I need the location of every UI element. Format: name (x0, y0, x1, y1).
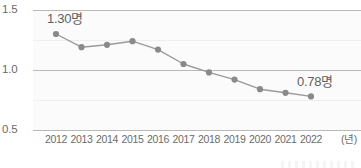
data-point-2014[interactable] (104, 42, 110, 48)
x-axis-tick-2013: 2013 (70, 134, 92, 145)
data-label-last-point: 0.78명 (297, 75, 333, 89)
x-axis-tick-2016: 2016 (147, 134, 169, 145)
x-axis-tick-2014: 2014 (96, 134, 118, 145)
x-axis-tick-2017: 2017 (172, 134, 194, 145)
series-markers (53, 31, 314, 100)
x-axis-tick-2018: 2018 (198, 134, 220, 145)
data-point-2021[interactable] (282, 90, 288, 96)
data-point-2020[interactable] (257, 86, 263, 92)
line-chart: 0.51.01.5 201220132014201520162017201820… (0, 0, 361, 168)
x-axis-tick-2012: 2012 (45, 134, 67, 145)
data-point-2022[interactable] (308, 93, 314, 99)
data-label-first-point: 1.30명 (47, 12, 83, 26)
data-point-2016[interactable] (155, 47, 161, 53)
x-axis-tick-2021: 2021 (274, 134, 296, 145)
data-point-2013[interactable] (78, 44, 84, 50)
data-point-2017[interactable] (180, 61, 186, 67)
data-point-2019[interactable] (231, 77, 237, 83)
data-point-2012[interactable] (53, 31, 59, 37)
x-axis-tick-2019: 2019 (223, 134, 245, 145)
bottom-edge-artifact (281, 161, 355, 168)
x-axis-tick-2022: 2022 (300, 134, 322, 145)
x-axis-tick-2015: 2015 (121, 134, 143, 145)
data-point-2015[interactable] (129, 38, 135, 44)
x-axis-tick-2020: 2020 (249, 134, 271, 145)
x-axis-unit-label: (년) (341, 134, 357, 145)
data-point-2018[interactable] (206, 69, 212, 75)
